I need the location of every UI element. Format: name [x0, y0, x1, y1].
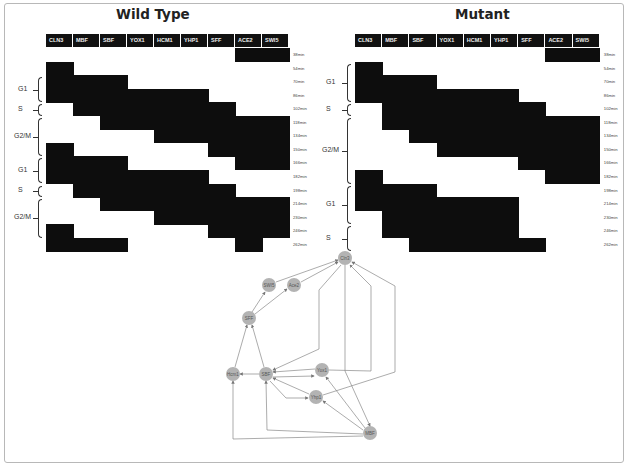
node-label: Ace2	[289, 283, 300, 288]
edge-sff-to-ace2	[255, 289, 287, 314]
network-nodes: Cln3SWI5Ace2SFFHcm1SBFYox1Yhp1MBF	[226, 251, 377, 440]
node-yhp1: Yhp1	[309, 390, 323, 404]
edge-sbf-to-sff	[252, 325, 264, 367]
node-label: SWI5	[263, 283, 274, 288]
node-label: Cln3	[340, 256, 350, 261]
node-cln3: Cln3	[338, 251, 352, 265]
edge-yox1-to-sbf	[273, 369, 315, 372]
node-sbf: SBF	[259, 367, 273, 381]
edge-cln3-to-mbf	[345, 265, 370, 426]
node-label: Yhp1	[311, 395, 322, 400]
edge-yhp1-to-cln3	[323, 262, 395, 395]
node-yox1: Yox1	[315, 363, 329, 377]
edge-mbf-to-yhp1	[323, 401, 363, 430]
node-label: MBF	[365, 431, 375, 436]
node-label: SBF	[262, 372, 271, 377]
edge-cln3-to-sbf	[273, 265, 341, 370]
network-edges	[233, 260, 395, 439]
node-sff: SFF	[242, 311, 256, 325]
edge-sbf-to-yhp1	[270, 381, 308, 398]
edge-yhp1-to-sbf	[273, 378, 309, 394]
node-label: Yox1	[317, 368, 327, 373]
edge-sff-to-swi5	[252, 292, 265, 312]
node-hcm1: Hcm1	[226, 367, 240, 381]
edge-sbf-to-yox1	[273, 376, 314, 377]
edge-ace2-to-cln3	[301, 262, 338, 282]
node-swi5: SWI5	[262, 278, 276, 292]
edge-mbf-to-hcm1	[233, 381, 363, 439]
edge-mbf-to-sbf	[266, 381, 363, 434]
node-label: SFF	[245, 316, 254, 321]
edge-hcm1-to-sff	[235, 325, 247, 367]
edge-yox1-to-cln3	[329, 265, 371, 371]
node-ace2: Ace2	[287, 278, 301, 292]
node-mbf: MBF	[363, 426, 377, 440]
node-label: Hcm1	[227, 372, 239, 377]
